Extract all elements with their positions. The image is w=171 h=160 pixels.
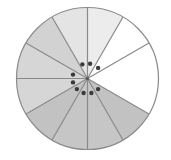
- dot-marker: [81, 91, 85, 95]
- dot-marker: [96, 87, 100, 91]
- dot-marker: [88, 62, 92, 66]
- pie-svg: [0, 0, 171, 160]
- dot-marker: [80, 62, 84, 66]
- dot-marker: [75, 87, 79, 91]
- fraction-circle-diagram: [0, 0, 171, 160]
- dot-marker: [89, 91, 93, 95]
- dot-marker: [71, 72, 75, 76]
- dot-marker: [96, 66, 100, 70]
- center-point: [86, 77, 89, 80]
- dot-marker: [71, 80, 75, 84]
